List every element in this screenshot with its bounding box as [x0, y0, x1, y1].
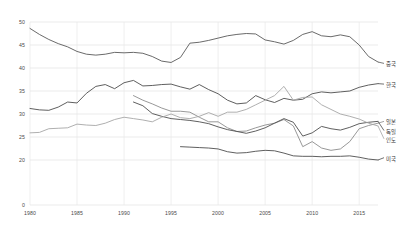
- line-chart: 0202530354045501980198519901995200020052…: [0, 0, 416, 235]
- series-line-2: [133, 96, 378, 151]
- series-line-4: [30, 86, 378, 132]
- series-label-2: 일본: [386, 118, 396, 126]
- series-leader-3: [378, 121, 384, 130]
- series-leader-0: [378, 62, 384, 63]
- y-axis-tick-label: 25: [7, 134, 25, 140]
- x-axis-tick-label: 1995: [156, 210, 186, 216]
- series-line-1: [30, 80, 378, 110]
- x-axis-tick-label: 2010: [297, 210, 327, 216]
- series-label-5: 미국: [386, 155, 396, 163]
- y-axis-tick-label: 40: [7, 65, 25, 71]
- x-axis-tick-label: 1990: [109, 210, 139, 216]
- series-label-0: 중국: [386, 60, 396, 68]
- y-axis-tick-label: 20: [7, 157, 25, 163]
- series-label-4: 인도: [386, 136, 396, 144]
- y-axis-tick-label: 30: [7, 111, 25, 117]
- x-axis-tick-label: 1980: [15, 210, 45, 216]
- chart-plot-area: [0, 0, 416, 235]
- series-label-3: 독일: [386, 128, 396, 136]
- series-leader-4: [378, 126, 384, 139]
- x-axis-tick-label: 2005: [250, 210, 280, 216]
- y-axis-tick-label: 35: [7, 88, 25, 94]
- x-axis-tick-label: 2000: [203, 210, 233, 216]
- y-axis-tick-label: 50: [7, 19, 25, 25]
- series-leader-5: [378, 158, 384, 160]
- series-label-1: 한국: [386, 81, 396, 89]
- series-line-3: [133, 102, 378, 136]
- y-axis-tick-label: 45: [7, 42, 25, 48]
- series-line-0: [30, 28, 378, 62]
- x-axis-tick-label: 1985: [62, 210, 92, 216]
- x-axis-tick-label: 2015: [344, 210, 374, 216]
- series-line-5: [180, 147, 378, 160]
- y-axis-tick-label: 0: [7, 202, 25, 208]
